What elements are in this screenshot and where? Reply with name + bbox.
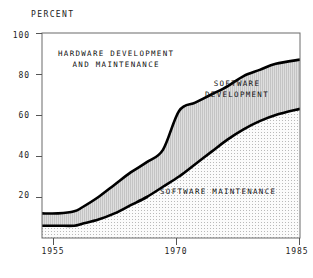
annotation-hardware-line2: AND MAINTENANCE: [58, 59, 174, 70]
plot-area: [0, 0, 313, 278]
x-tick-marks: [54, 238, 300, 245]
annotation-software-development-line1: SOFTWARE: [205, 78, 269, 89]
annotation-software-development: SOFTWARE DEVELOPMENT: [205, 78, 269, 100]
annotation-hardware: HARDWARE DEVELOPMENT AND MAINTENANCE: [58, 48, 174, 70]
annotation-software-maintenance: SOFTWARE MAINTENANCE: [160, 186, 276, 197]
annotation-hardware-line1: HARDWARE DEVELOPMENT: [58, 48, 174, 59]
percent-area-chart: PERCENT 100 80 60 40 20 1955 1970 1985: [0, 0, 313, 278]
y-tick-marks: [36, 34, 42, 198]
annotation-software-development-line2: DEVELOPMENT: [205, 89, 269, 100]
